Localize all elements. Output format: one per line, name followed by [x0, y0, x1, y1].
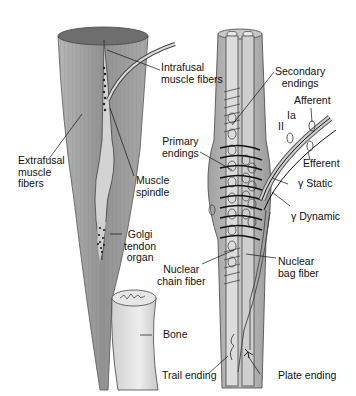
- label-nuclear-bag: Nuclear bag fiber: [278, 256, 319, 279]
- label-efferent: Efferent: [303, 158, 340, 170]
- label-ii: II: [278, 121, 284, 133]
- label-extrafusal-line3: fibers: [18, 178, 65, 190]
- label-nuclear-chain-line1: Nuclear: [157, 264, 205, 276]
- label-primary-endings: Primary endings: [162, 136, 199, 159]
- label-intrafusal-line1: Intrafusal: [161, 62, 223, 74]
- whole-muscle: [58, 27, 175, 390]
- label-secondary-line1: Secondary: [275, 66, 325, 78]
- label-golgi: Golgi tendon organ: [124, 229, 156, 264]
- label-golgi-line3: organ: [124, 252, 156, 264]
- label-intrafusal-line2: muscle fibers: [161, 74, 223, 86]
- label-muscle-spindle-line2: spindle: [136, 187, 169, 199]
- label-ia: Ia: [287, 110, 296, 122]
- label-extrafusal-line1: Extrafusal: [18, 155, 65, 167]
- label-secondary-line2: endings: [275, 78, 325, 90]
- label-gamma-dynamic: γ Dynamic: [291, 211, 340, 223]
- label-secondary-endings: Secondary endings: [275, 66, 325, 89]
- diagram-canvas: Intrafusal muscle fibers Extrafusal musc…: [0, 0, 356, 396]
- label-muscle-spindle-line1: Muscle: [136, 175, 169, 187]
- label-nuclear-bag-line1: Nuclear: [278, 256, 319, 268]
- label-intrafusal: Intrafusal muscle fibers: [161, 62, 223, 85]
- label-extrafusal: Extrafusal muscle fibers: [18, 155, 65, 190]
- label-muscle-spindle: Muscle spindle: [136, 175, 169, 198]
- label-bone: Bone: [163, 329, 188, 341]
- label-nuclear-bag-line2: bag fiber: [278, 268, 319, 280]
- label-trail-ending: Trail ending: [162, 370, 216, 382]
- label-primary-line1: Primary: [162, 136, 199, 148]
- label-golgi-line1: Golgi: [124, 229, 156, 241]
- label-afferent: Afferent: [294, 95, 331, 107]
- label-plate-ending: Plate ending: [278, 370, 336, 382]
- label-gamma-static: γ Static: [298, 178, 332, 190]
- label-primary-line2: endings: [162, 148, 199, 160]
- label-nuclear-chain-line2: chain fiber: [157, 276, 205, 288]
- label-nuclear-chain: Nuclear chain fiber: [157, 264, 205, 287]
